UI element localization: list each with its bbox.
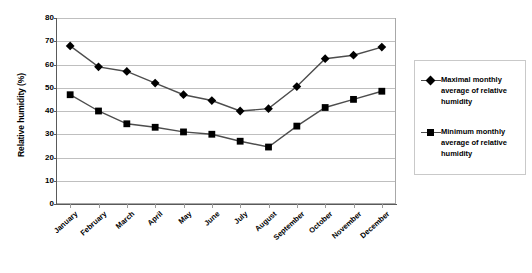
data-point-marker <box>152 124 159 131</box>
data-point-marker <box>377 43 386 52</box>
x-tick-label: October <box>308 210 334 235</box>
x-tick-label: May <box>177 210 193 225</box>
legend-label-maximal: Maximal monthly average of relative humi… <box>441 75 521 108</box>
data-point-marker <box>179 90 188 99</box>
x-tick-mark <box>212 204 213 208</box>
y-tick-label: 30 <box>32 130 54 138</box>
series-line-maximal <box>70 46 382 111</box>
x-tick-label: November <box>330 210 362 240</box>
data-point-marker <box>322 104 329 111</box>
y-tick-label: 0 <box>32 200 54 208</box>
x-tick-mark <box>382 204 383 208</box>
data-point-marker <box>67 91 74 98</box>
x-tick-mark <box>354 204 355 208</box>
x-tick-mark <box>184 204 185 208</box>
diamond-marker-icon <box>421 75 441 86</box>
x-tick-label: June <box>203 210 221 227</box>
x-tick-mark <box>155 204 156 208</box>
data-point-marker <box>180 129 187 136</box>
x-tick-label: February <box>79 210 108 237</box>
x-tick-label: April <box>146 210 164 227</box>
data-point-marker <box>207 96 216 105</box>
x-tick-label: January <box>53 210 79 235</box>
data-point-marker <box>208 131 215 138</box>
x-tick-label: July <box>233 210 249 226</box>
y-tick-label: 70 <box>32 37 54 45</box>
data-point-marker <box>123 120 130 127</box>
humidity-line-chart: Relative humidity (%) 01020304050607080 … <box>0 0 532 273</box>
data-point-marker <box>151 79 160 88</box>
data-point-marker <box>350 96 357 103</box>
y-tick-label: 20 <box>32 154 54 162</box>
legend-entry-maximal: Maximal monthly average of relative humi… <box>421 75 521 108</box>
y-tick-label: 40 <box>32 107 54 115</box>
legend-label-minimum: Minimum monthly average of relative humi… <box>441 127 521 160</box>
x-tick-mark <box>99 204 100 208</box>
data-point-marker <box>378 88 385 95</box>
y-tick-label: 60 <box>32 61 54 69</box>
legend-entry-minimum: Minimum monthly average of relative humi… <box>421 127 521 160</box>
x-tick-mark <box>325 204 326 208</box>
chart-legend: Maximal monthly average of relative humi… <box>414 60 526 175</box>
y-tick-label: 50 <box>32 84 54 92</box>
x-tick-mark <box>269 204 270 208</box>
square-marker-icon <box>421 127 441 138</box>
x-tick-label: August <box>253 210 277 233</box>
data-series-layer <box>56 18 396 204</box>
x-tick-mark <box>297 204 298 208</box>
y-axis-ticks: 01020304050607080 <box>0 18 54 204</box>
x-tick-mark <box>70 204 71 208</box>
x-tick-mark <box>240 204 241 208</box>
x-axis-line <box>56 204 397 205</box>
x-tick-label: December <box>359 210 391 240</box>
x-tick-mark <box>127 204 128 208</box>
data-point-marker <box>236 107 245 116</box>
data-point-marker <box>265 144 272 151</box>
y-tick-label: 80 <box>32 14 54 22</box>
y-tick-label: 10 <box>32 177 54 185</box>
data-point-marker <box>95 108 102 115</box>
data-point-marker <box>122 67 131 76</box>
data-point-marker <box>293 123 300 130</box>
data-point-marker <box>349 51 358 60</box>
x-tick-label: March <box>114 210 135 230</box>
series-line-minimum <box>70 91 382 147</box>
data-point-marker <box>237 138 244 145</box>
